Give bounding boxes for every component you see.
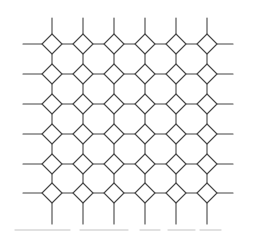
- diamond-tile: [135, 124, 155, 144]
- diamond-tile: [166, 94, 186, 114]
- diamond-tile: [104, 34, 124, 54]
- diamond-tile: [73, 94, 93, 114]
- diamond-tile: [73, 64, 93, 84]
- diamond-tile: [42, 124, 62, 144]
- diamond-tile: [104, 64, 124, 84]
- diamond-tile: [73, 34, 93, 54]
- diamond-tile: [135, 64, 155, 84]
- diamond-tile: [104, 124, 124, 144]
- diamond-tile: [42, 34, 62, 54]
- diamond-tile: [42, 94, 62, 114]
- diamond-tile: [104, 154, 124, 174]
- diamond-tile: [73, 124, 93, 144]
- truncated-square-tiling-figure: [0, 0, 255, 234]
- diamond-tile: [197, 124, 217, 144]
- diamond-tile: [42, 154, 62, 174]
- diamond-tile: [166, 64, 186, 84]
- diamond-tile: [197, 64, 217, 84]
- diamond-tile: [73, 183, 93, 203]
- diamond-tile: [135, 183, 155, 203]
- diamond-tile: [104, 183, 124, 203]
- diamond-tile: [166, 124, 186, 144]
- diamond-tile: [135, 154, 155, 174]
- diamond-tile: [197, 34, 217, 54]
- diamond-tile: [104, 94, 124, 114]
- diamond-tile: [73, 154, 93, 174]
- diamond-tile: [135, 94, 155, 114]
- diamond-tile: [166, 183, 186, 203]
- diamond-tile: [166, 154, 186, 174]
- diamond-tile: [42, 183, 62, 203]
- diamond-tile: [166, 34, 186, 54]
- diamond-tile: [197, 183, 217, 203]
- diamond-tile: [42, 64, 62, 84]
- diamond-tile: [197, 94, 217, 114]
- diamond-tile: [197, 154, 217, 174]
- scanned-figure-page: [0, 0, 255, 234]
- diamond-tile: [135, 34, 155, 54]
